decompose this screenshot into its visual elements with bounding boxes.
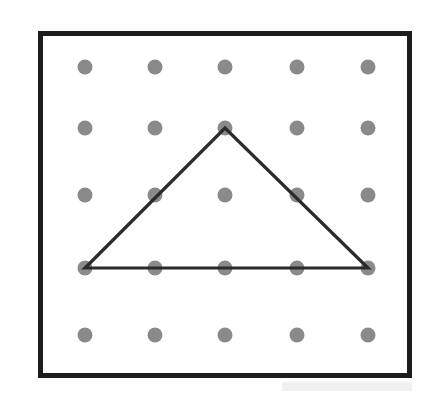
peg-r5c3[interactable] [218,328,233,343]
peg-r1c4[interactable] [290,60,305,75]
peg-r5c5[interactable] [361,328,376,343]
board-interior [41,34,410,376]
peg-r3c1[interactable] [78,188,93,203]
peg-r2c2[interactable] [148,121,163,136]
scan-smudge-artifact [282,382,412,391]
peg-r5c2[interactable] [148,328,163,343]
peg-r2c4[interactable] [290,121,305,136]
peg-r2c5[interactable] [361,121,376,136]
peg-r1c5[interactable] [361,60,376,75]
peg-r5c1[interactable] [78,328,93,343]
peg-r1c3[interactable] [218,60,233,75]
peg-r1c1[interactable] [78,60,93,75]
peg-r5c4[interactable] [290,328,305,343]
geoboard-canvas [0,0,436,397]
peg-r2c1[interactable] [78,121,93,136]
peg-r3c3[interactable] [218,188,233,203]
geoboard-figure [0,0,436,397]
peg-r3c5[interactable] [361,188,376,203]
peg-r1c2[interactable] [148,60,163,75]
